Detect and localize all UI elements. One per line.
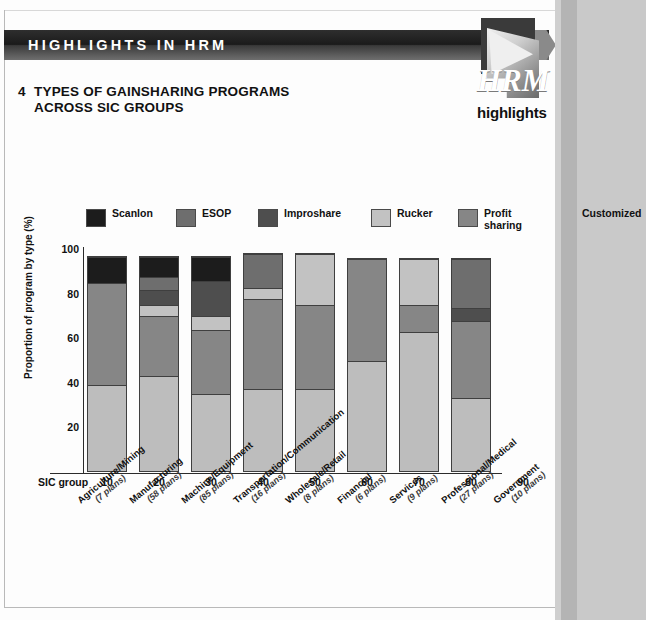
bar-segment-improshare bbox=[192, 281, 230, 316]
bar-segment-profit-sharing bbox=[244, 299, 282, 390]
y-axis-title: Proportion of program by type (%) bbox=[23, 208, 34, 388]
page-border-bottom bbox=[4, 607, 562, 608]
legend-label: Rucker bbox=[397, 208, 433, 220]
bar-segment-improshare bbox=[452, 308, 490, 321]
x-axis-title: SIC group bbox=[38, 476, 88, 488]
legend-label: Improshare bbox=[284, 208, 341, 220]
bar-segment-profit-sharing bbox=[88, 283, 126, 385]
page-gutter bbox=[561, 0, 577, 620]
legend-swatch bbox=[458, 209, 478, 227]
hrm-logo: HRM highlights bbox=[475, 18, 561, 130]
bar-segment-rucker bbox=[296, 254, 334, 305]
legend-swatch bbox=[258, 209, 278, 227]
chart-title-number: 4 bbox=[18, 84, 34, 100]
banner-title: HIGHLIGHTS IN HRM bbox=[28, 30, 227, 60]
bar-segment-profit-sharing bbox=[140, 316, 178, 376]
logo-subtitle: highlights bbox=[477, 104, 567, 121]
page-title: 4TYPES OF GAINSHARING PROGRAMS ACROSS SI… bbox=[18, 84, 438, 116]
bar-segment-profit-sharing bbox=[296, 305, 334, 389]
bar-segment-scanlon bbox=[140, 257, 178, 277]
bar-10 bbox=[87, 256, 127, 472]
legend-label: ESOP bbox=[202, 208, 231, 220]
page-border-left bbox=[4, 10, 5, 608]
page-border-top bbox=[4, 10, 562, 11]
legend-label: Customized bbox=[582, 208, 642, 220]
y-axis-tick-label: 80 bbox=[45, 288, 79, 300]
y-axis-ticks: 10080604020 bbox=[41, 249, 79, 472]
bar-segment-esop bbox=[140, 277, 178, 290]
bar-segment-esop bbox=[452, 259, 490, 308]
bar-segment-esop bbox=[244, 254, 282, 287]
y-axis-tick-label: 40 bbox=[45, 377, 79, 389]
chart-title-line2: ACROSS SIC GROUPS bbox=[34, 100, 438, 116]
bar-segment-profit-sharing bbox=[400, 305, 438, 332]
logo-wordmark: HRM bbox=[477, 64, 561, 98]
legend-swatch bbox=[176, 209, 196, 227]
legend-swatch bbox=[86, 209, 106, 227]
y-axis-tick-label: 100 bbox=[45, 243, 79, 255]
bar-segment-rucker bbox=[140, 305, 178, 316]
y-axis-tick-label: 60 bbox=[45, 332, 79, 344]
chart-legend: ScanlonESOPImproshareRuckerProfit sharin… bbox=[86, 209, 556, 239]
legend-swatch bbox=[371, 209, 391, 227]
bar-segment-rucker bbox=[192, 316, 230, 329]
bar-segment-profit-sharing bbox=[348, 259, 386, 361]
bar-segment-improshare bbox=[140, 290, 178, 305]
bar-segment-rucker bbox=[400, 259, 438, 305]
bar-segment-rucker bbox=[244, 288, 282, 299]
legend-label: Profit sharing bbox=[484, 208, 522, 231]
y-axis-tick-label: 20 bbox=[45, 421, 79, 433]
legend-label: Scanlon bbox=[112, 208, 153, 220]
bar-segment-scanlon bbox=[88, 257, 126, 284]
bar-segment-scanlon bbox=[192, 257, 230, 281]
chart-title-line1: TYPES OF GAINSHARING PROGRAMS bbox=[34, 84, 290, 99]
